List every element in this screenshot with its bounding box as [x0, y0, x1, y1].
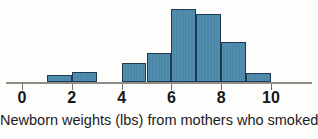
histogram-bar — [196, 14, 221, 82]
chart-caption: Newborn weights (lbs) from mothers who s… — [0, 110, 318, 130]
histogram-figure: 0246810 Newborn weights (lbs) from mothe… — [0, 0, 318, 139]
x-axis-tick-label: 4 — [102, 88, 142, 108]
x-axis-tick-label: 8 — [201, 88, 241, 108]
x-axis-tick-label: 6 — [151, 88, 191, 108]
histogram-bar — [221, 42, 246, 82]
x-axis-tick-label: 0 — [2, 88, 42, 108]
histogram-bar — [122, 63, 147, 82]
x-axis-tick-label: 10 — [251, 88, 291, 108]
histogram-bar — [47, 75, 72, 82]
histogram-bar — [72, 72, 97, 82]
histogram-bar — [147, 53, 172, 82]
histogram-bar — [246, 73, 271, 82]
x-axis-tick-labels: 0246810 — [0, 88, 318, 110]
plot-area — [0, 0, 318, 84]
x-axis-tick-label: 2 — [52, 88, 92, 108]
histogram-bar — [171, 9, 196, 82]
